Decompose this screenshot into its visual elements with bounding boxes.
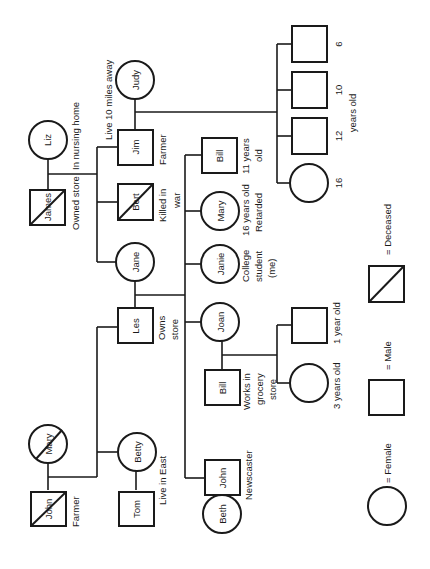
note-label: Works in bbox=[241, 373, 252, 410]
legend-deceased: = Deceased bbox=[369, 204, 404, 302]
note-label: student bbox=[253, 250, 264, 282]
genogram-diagram: James Owned store Liz In nursing home Ji… bbox=[0, 0, 430, 569]
name-label: Bert bbox=[130, 193, 141, 211]
note-label: In nursing home bbox=[70, 102, 81, 170]
person-liz: Liz bbox=[29, 121, 67, 159]
name-label: James bbox=[42, 193, 53, 221]
note-label: store bbox=[267, 379, 278, 400]
legend-female: = Female bbox=[368, 443, 406, 525]
person-judy: Judy bbox=[116, 61, 154, 99]
person-joan: Joan bbox=[201, 303, 239, 341]
person-jane: Jane bbox=[116, 243, 154, 281]
name-label: Liz bbox=[42, 134, 53, 146]
child-son-1yr bbox=[292, 308, 327, 343]
child-son-10 bbox=[292, 72, 327, 108]
bill-joan-children bbox=[290, 308, 328, 402]
name-label: Mary bbox=[43, 433, 54, 454]
name-label: Janie bbox=[215, 253, 226, 276]
note-label: war bbox=[171, 193, 182, 209]
person-janie: Janie bbox=[201, 245, 239, 283]
person-jim: Jim bbox=[118, 130, 153, 165]
person-mary-grandmother: Mary bbox=[29, 425, 67, 463]
note-label: Owned store bbox=[70, 176, 81, 230]
age-label: 10 bbox=[333, 85, 344, 96]
name-label: Mary bbox=[215, 200, 226, 221]
note-label: Farmer bbox=[70, 496, 81, 527]
age-label: 12 bbox=[333, 131, 344, 142]
person-beth: Beth bbox=[203, 495, 241, 533]
name-label: Les bbox=[130, 318, 141, 334]
note-label: old bbox=[253, 149, 264, 162]
note-label: (me) bbox=[266, 258, 277, 278]
name-label: John bbox=[43, 499, 54, 520]
person-les: Les bbox=[118, 308, 153, 343]
name-label: Betty bbox=[132, 441, 143, 463]
note-label: Retarded bbox=[253, 193, 264, 232]
age-label: 3 years old bbox=[331, 363, 342, 409]
name-label: Joan bbox=[215, 312, 226, 333]
age-label: 1 year old bbox=[331, 302, 342, 344]
person-bert: Bert bbox=[118, 184, 153, 220]
child-son-12 bbox=[292, 118, 327, 154]
name-label: Bill bbox=[217, 382, 228, 395]
legend-male: = Male bbox=[369, 341, 404, 415]
child-daughter-16 bbox=[290, 164, 328, 202]
person-betty: Betty bbox=[118, 433, 156, 471]
person-tom: Tom bbox=[119, 492, 154, 526]
note-label: grocery bbox=[254, 373, 265, 405]
note-label: Owns bbox=[156, 315, 167, 340]
name-label: Jane bbox=[130, 252, 141, 273]
person-bill-grocery: Bill bbox=[205, 370, 240, 405]
person-james: James bbox=[30, 190, 65, 225]
name-label: Bill bbox=[214, 150, 225, 163]
name-label: Tom bbox=[131, 500, 142, 518]
age-label: 16 bbox=[333, 178, 344, 189]
age-label: 6 bbox=[333, 41, 344, 46]
legend: = Deceased = Male = Female bbox=[368, 204, 406, 525]
note-label: 11 years bbox=[240, 138, 251, 174]
person-john-son: John bbox=[205, 460, 240, 495]
person-john-grandfather: John bbox=[31, 492, 66, 526]
note-label: 16 years old bbox=[240, 184, 251, 236]
child-daughter-3yr bbox=[290, 364, 328, 402]
name-label: Judy bbox=[130, 70, 141, 90]
name-label: Jim bbox=[130, 140, 141, 155]
legend-label: = Male bbox=[382, 341, 393, 370]
note-label: Farmer bbox=[157, 134, 168, 165]
couple-note-label: Live 10 miles away bbox=[103, 59, 114, 140]
name-label: Beth bbox=[217, 504, 228, 524]
note-label: store bbox=[169, 319, 180, 340]
legend-label: = Female bbox=[382, 443, 393, 483]
name-label: John bbox=[217, 468, 228, 489]
jim-children bbox=[290, 26, 328, 202]
years-old-label: years old bbox=[347, 94, 358, 133]
legend-label: = Deceased bbox=[382, 204, 393, 255]
male-symbol-icon bbox=[369, 380, 404, 415]
child-son-6 bbox=[292, 26, 327, 62]
person-mary-daughter: Mary bbox=[201, 192, 239, 230]
female-symbol-icon bbox=[368, 487, 406, 525]
note-label: Killed in bbox=[157, 189, 168, 222]
note-label: Newscaster bbox=[243, 450, 254, 500]
note-label: College bbox=[240, 250, 251, 282]
note-label: Live in East bbox=[157, 456, 168, 505]
person-bill-son: Bill bbox=[202, 138, 237, 173]
